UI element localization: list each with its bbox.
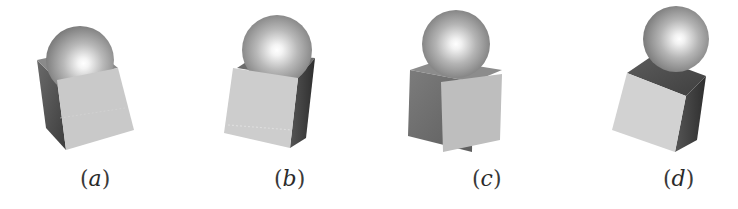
scene-c — [408, 10, 502, 152]
cube-c-right-face — [441, 74, 502, 152]
figure: (a) (b) (c) (d) — [0, 0, 738, 209]
scene-a — [37, 26, 134, 150]
caption-d-letter: d — [672, 166, 686, 191]
caption-a-letter: a — [89, 166, 102, 191]
caption-b-open-paren: ( — [274, 166, 283, 191]
caption-b-close-paren: ) — [297, 166, 306, 191]
caption-c-letter: c — [481, 166, 493, 191]
caption-c-close-paren: ) — [493, 166, 502, 191]
caption-a-close-paren: ) — [102, 166, 111, 191]
caption-c: (c) — [472, 166, 502, 192]
caption-c-open-paren: ( — [472, 166, 481, 191]
sphere-d — [643, 6, 709, 72]
caption-d-open-paren: ( — [663, 166, 672, 191]
rendered-scenes — [0, 0, 738, 160]
caption-b: (b) — [274, 166, 305, 192]
caption-d-close-paren: ) — [686, 166, 695, 191]
caption-a: (a) — [80, 166, 110, 192]
scene-d — [612, 6, 709, 152]
caption-d: (d) — [663, 166, 694, 192]
cube-b-front-face — [224, 68, 298, 148]
caption-b-letter: b — [283, 166, 297, 191]
caption-a-open-paren: ( — [80, 166, 89, 191]
sphere-c — [422, 10, 490, 78]
scene-b — [224, 15, 315, 148]
cube-a-front-face — [57, 68, 134, 150]
